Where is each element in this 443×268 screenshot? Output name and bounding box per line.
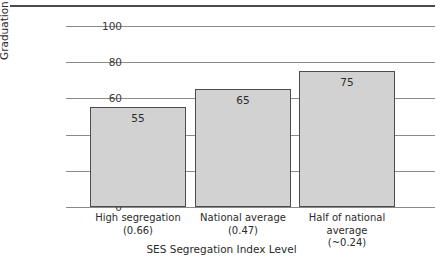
plot-area: 100 80 60 40 20 0 55 65 75 [66, 26, 435, 207]
y-axis-title: Graduation Rate [0, 0, 10, 60]
bar-value-label-national-average: 65 [196, 95, 290, 106]
x-tick-label-national-average: National average (0.47) [183, 212, 303, 237]
y-tick-label-100: 100 [102, 21, 122, 32]
bar-high-segregation[interactable]: 55 [90, 107, 186, 207]
bar-half-of-national-average[interactable]: 75 [299, 71, 395, 207]
figure-top-rule [10, 5, 435, 7]
bar-value-label-half-of-national-average: 75 [300, 77, 394, 88]
bar-national-average[interactable]: 65 [195, 89, 291, 207]
bar-value-label-high-segregation: 55 [91, 113, 185, 124]
x-tick-label-high-segregation: High segregation (0.66) [78, 212, 198, 237]
bar-chart-figure: Graduation Rate 100 80 60 40 20 0 55 [0, 0, 443, 268]
y-tick-dash-100 [124, 26, 131, 27]
y-tick-label-60: 60 [109, 93, 122, 104]
x-axis-title: SES Segregation Index Level [0, 243, 443, 255]
y-tick-dash-60 [124, 98, 131, 99]
y-tick-label-80: 80 [109, 57, 122, 68]
y-tick-dash-80 [124, 62, 131, 63]
y-tick-dash-0 [124, 207, 131, 208]
